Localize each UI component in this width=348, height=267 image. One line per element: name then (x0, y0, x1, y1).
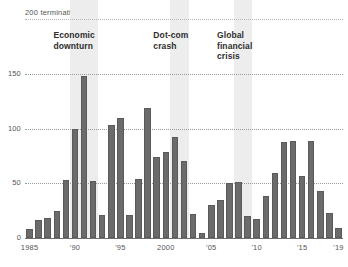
bar-series (25, 19, 343, 238)
y-tick-label-0: 0 (17, 233, 21, 242)
bar (163, 152, 170, 239)
bar (235, 182, 242, 238)
bar (272, 173, 279, 238)
bar (54, 211, 61, 238)
y-tick-label-100: 100 (8, 124, 21, 133)
plot-area: 150100500 (25, 19, 343, 238)
x-tick-label-15: '15 (297, 243, 307, 252)
y-tick-label-150: 150 (8, 69, 21, 78)
bar (44, 218, 51, 238)
bar (135, 179, 142, 238)
bar (263, 196, 270, 238)
bar (308, 141, 315, 238)
x-tick-label-2000: 2000 (157, 243, 175, 252)
bar (26, 229, 33, 238)
annotation-label-1: Dot-com crash (153, 30, 188, 51)
bar (317, 191, 324, 238)
x-axis-line (25, 238, 343, 239)
annotation-label-2: Global financial crisis (217, 30, 252, 62)
bar (299, 176, 306, 238)
bar (281, 142, 288, 238)
bar (190, 214, 197, 238)
x-tick-label-10: '10 (251, 243, 261, 252)
bar (117, 118, 124, 238)
x-tick-label-05: '05 (206, 243, 216, 252)
bar (208, 205, 215, 238)
x-tick-label-19: '19 (333, 243, 343, 252)
x-tick-label-95: '95 (115, 243, 125, 252)
bar (81, 76, 88, 238)
bar (226, 183, 233, 238)
y-tick-label-50: 50 (12, 178, 21, 187)
x-tick-label-1985: 1985 (21, 243, 39, 252)
bar (335, 228, 342, 238)
bar (72, 129, 79, 239)
bar (108, 125, 115, 238)
bar (172, 137, 179, 238)
bar (99, 215, 106, 238)
bar (244, 216, 251, 238)
annotation-label-0: Economic downturn (53, 30, 94, 51)
bar (90, 181, 97, 238)
x-tick-label-90: '90 (70, 243, 80, 252)
bar (217, 200, 224, 238)
bar (290, 141, 297, 238)
chart-figure: 200 terminations 150100500 Economic down… (0, 0, 348, 267)
bar (126, 215, 133, 238)
bar (326, 213, 333, 238)
bar (144, 108, 151, 238)
bar (181, 161, 188, 238)
bar (63, 180, 70, 238)
bar (35, 220, 42, 238)
bar (153, 157, 160, 238)
bar (253, 219, 260, 238)
